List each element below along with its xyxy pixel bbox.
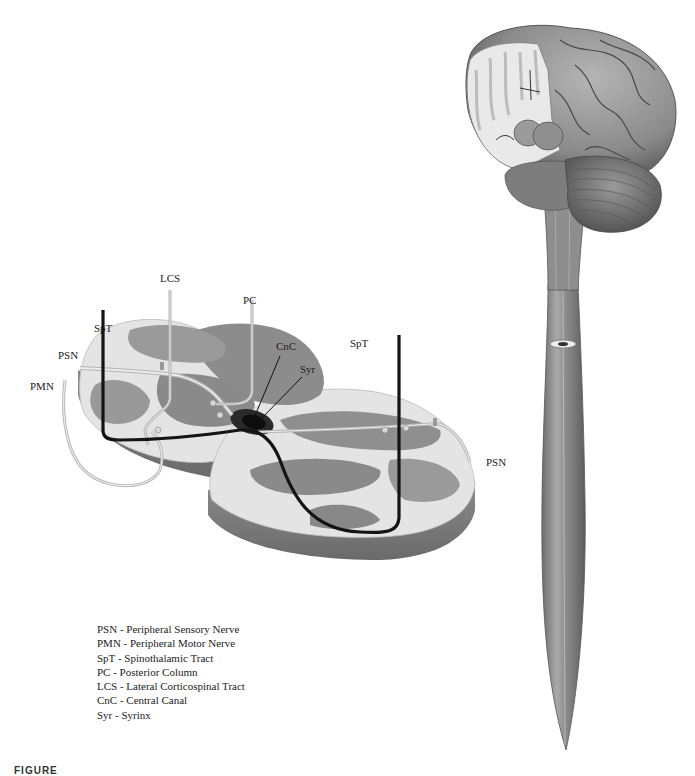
label-spt-left: SpT [94, 322, 112, 334]
legend-item-lcs: LCS - Lateral Corticospinal Tract [97, 679, 245, 693]
legend-item-cnc: CnC - Central Canal [97, 693, 245, 707]
legend-item-spt: SpT - Spinothalamic Tract [97, 651, 245, 665]
label-pc: PC [243, 294, 256, 306]
legend-item-pc: PC - Posterior Column [97, 665, 245, 679]
label-syr: Syr [300, 363, 315, 375]
label-spt-right: SpT [350, 337, 368, 349]
legend: PSN - Peripheral Sensory Nerve PMN - Per… [97, 622, 245, 722]
label-cnc: CnC [276, 340, 296, 352]
legend-item-pmn: PMN - Peripheral Motor Nerve [97, 636, 245, 650]
label-psn-left: PSN [58, 349, 78, 361]
label-psn-right: PSN [486, 456, 506, 468]
label-lcs: LCS [160, 272, 180, 284]
legend-item-psn: PSN - Peripheral Sensory Nerve [97, 622, 245, 636]
figure-caption: FIGURE [14, 765, 58, 776]
brain-and-spinal-cord [466, 25, 676, 750]
label-pmn: PMN [30, 380, 54, 392]
legend-item-syr: Syr - Syrinx [97, 708, 245, 722]
